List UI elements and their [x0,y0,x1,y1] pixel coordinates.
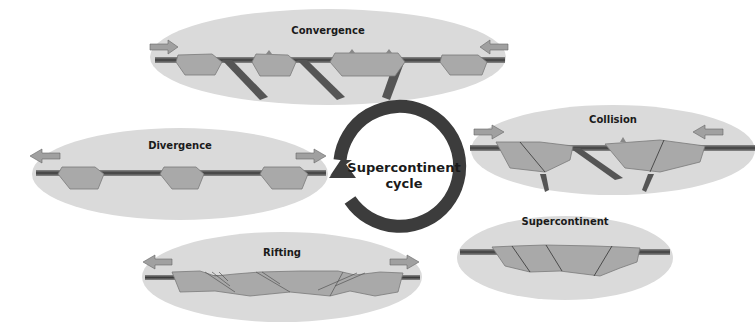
stage-supercontinent: Supercontinent [457,216,673,300]
stage-rifting: Rifting [142,232,422,322]
stage-label: Supercontinent [521,216,608,227]
stage-label: Convergence [291,25,365,36]
supercontinent-cycle-diagram: Convergence Divergence Supercontinent cy… [0,0,755,333]
stage-label: Rifting [263,247,301,258]
cycle-arrow: Supercontinent cycle [329,106,461,226]
stage-label: Collision [589,114,637,125]
continent [176,54,222,75]
center-label-line1: Supercontinent [347,160,460,175]
continent [252,54,296,76]
stage-collision: Collision [470,105,755,195]
continent [330,53,405,76]
center-label-line2: cycle [385,176,422,191]
stage-convergence: Convergence [150,9,508,105]
stage-divergence: Divergence [30,128,328,220]
stage-label: Divergence [148,140,212,151]
